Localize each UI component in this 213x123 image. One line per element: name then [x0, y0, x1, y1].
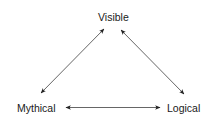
node-logical-label: Logical	[167, 103, 200, 114]
node-visible-label: Visible	[98, 12, 129, 23]
edge-visible-mythical	[41, 29, 104, 93]
diagram-canvas: Visible Mythical Logical	[0, 0, 213, 123]
edge-visible-logical	[121, 30, 184, 94]
node-mythical-label: Mythical	[17, 103, 56, 114]
